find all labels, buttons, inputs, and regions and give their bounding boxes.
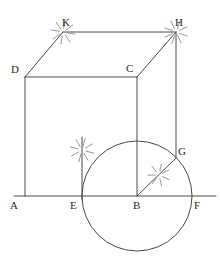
construction-dash: [56, 22, 61, 29]
construction-dash: [79, 154, 81, 162]
construction-dash: [163, 177, 169, 180]
construction-dash: [85, 144, 92, 148]
construction-dash: [70, 147, 78, 149]
construction-dash: [65, 35, 70, 42]
vertex-label-D: D: [11, 63, 19, 75]
vertex-label-B: B: [133, 199, 140, 211]
construction-dash: [165, 28, 173, 31]
vertex-label-A: A: [10, 199, 18, 211]
segment-C-H: [137, 32, 176, 77]
vertex-label-F: F: [194, 199, 200, 211]
segment-B-G: [137, 158, 176, 196]
construction-dash: [160, 179, 162, 186]
vertex-label-H: H: [175, 16, 183, 28]
vertex-label-G: G: [178, 145, 186, 157]
vertex-label-C: C: [126, 62, 133, 74]
segment-D-K: [25, 32, 63, 77]
construction-dash: [76, 140, 80, 147]
construction-dash: [178, 36, 181, 43]
construction-dash: [171, 21, 174, 28]
vertex-label-E: E: [70, 199, 77, 211]
construction-dash: [67, 33, 75, 34]
construction-dash: [180, 33, 188, 36]
construction-dash: [83, 138, 85, 146]
vertex-label-K: K: [62, 16, 70, 28]
construction-dash: [86, 151, 94, 153]
geometry-figure: ABCDEFGHK: [0, 0, 220, 262]
construction-dash: [165, 34, 172, 37]
construction-dash: [61, 36, 62, 44]
construction-dash: [72, 152, 79, 156]
construction-dash: [152, 166, 156, 171]
geometry-canvas: ABCDEFGHK: [0, 0, 220, 262]
construction-dash: [84, 153, 88, 160]
construction-dash: [160, 164, 161, 171]
construction-dash: [51, 30, 59, 31]
